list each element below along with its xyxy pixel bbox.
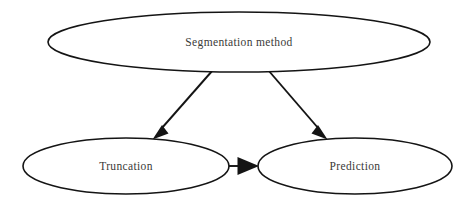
edge-line-segmentation-prediction [269,71,319,129]
node-prediction[interactable]: Prediction [258,138,452,194]
diagram-canvas: Segmentation method Truncation Predictio… [0,0,476,209]
node-segmentation-method[interactable]: Segmentation method [48,12,430,72]
arrowhead-truncation-prediction [238,157,260,175]
arrowhead-segmentation-prediction [312,125,328,140]
arrowhead-segmentation-truncation [153,125,169,140]
node-label-truncation: Truncation [99,160,153,172]
node-truncation[interactable]: Truncation [23,138,229,194]
edge-line-segmentation-truncation [162,71,213,129]
edge-segmentation-to-prediction [269,71,328,140]
edge-segmentation-to-truncation [153,71,213,140]
node-label-segmentation-method: Segmentation method [185,36,292,49]
node-label-prediction: Prediction [330,160,381,172]
edge-truncation-to-prediction [228,157,259,175]
flowchart-graphic: Segmentation method Truncation Predictio… [0,0,476,209]
